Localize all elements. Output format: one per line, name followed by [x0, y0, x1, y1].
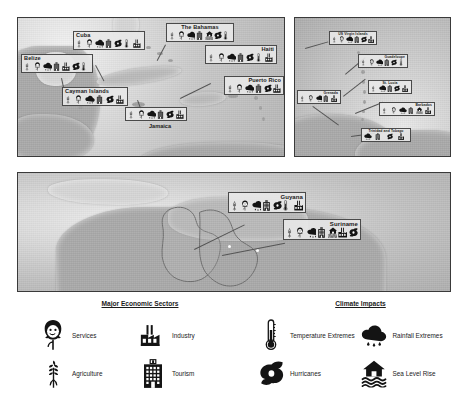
services-icon: [308, 95, 315, 102]
tourism-icon: [157, 110, 166, 119]
label-box-st-lucia[interactable]: St. Lucia: [368, 80, 412, 94]
tourism-icon: [96, 95, 105, 104]
hurricane-icon: [166, 110, 175, 119]
agriculture-icon: [382, 107, 390, 114]
services-icon: [178, 31, 186, 40]
temperature-icon: [223, 31, 231, 40]
label-box-cuba[interactable]: Cuba: [73, 31, 145, 50]
hurricane-icon: [394, 85, 401, 92]
icon-row-belize: [24, 62, 90, 71]
rainfall-icon: [361, 318, 387, 352]
icon-row-the-bahamas: [169, 31, 231, 40]
legend: Major Economic Sectors Services Agricult…: [0, 300, 468, 415]
tourism-icon: [317, 227, 326, 238]
label-box-the-bahamas[interactable]: The Bahamas: [166, 23, 234, 42]
services-icon: [236, 84, 244, 93]
services-icon: [75, 95, 84, 104]
map-figure: Belize Cuba: [0, 0, 468, 415]
rainfall-icon: [227, 53, 236, 62]
services-icon: [241, 200, 250, 211]
rainfall-icon: [245, 84, 253, 93]
icon-row-guyana: [231, 200, 303, 211]
hurricane-icon: [349, 227, 358, 238]
legend-subcol-sectors-left: Services Agriculture: [40, 316, 140, 392]
tourism-icon: [262, 200, 271, 211]
legend-title-economic-sectors: Major Economic Sectors: [40, 300, 240, 307]
northern-south-america-panel: Guyana Suriname: [17, 172, 451, 292]
legend-subcol-climate-right: Rainfall Extremes Sea Level Rise: [361, 316, 464, 392]
services-icon: [369, 59, 376, 66]
legend-subcol-climate-left: Temperature Extremes Hurricanes: [258, 316, 361, 392]
label-box-haiti[interactable]: Haiti: [205, 45, 277, 64]
label-box-us-virgin-islands[interactable]: US Virgin Islands: [329, 31, 377, 45]
rainfall-icon: [376, 59, 383, 66]
services-icon: [138, 110, 147, 119]
services-icon: [86, 39, 95, 48]
label-box-jamaica[interactable]: [125, 107, 187, 121]
legend-label-temperature-extremes: Temperature Extremes: [290, 332, 355, 339]
agriculture-icon: [361, 59, 368, 66]
industry-icon: [425, 107, 433, 114]
hurricane-icon: [387, 133, 397, 140]
agriculture-icon: [332, 36, 338, 43]
label-box-guyana[interactable]: Guyana: [228, 192, 306, 213]
rainfall-icon: [316, 95, 323, 102]
label-box-belize[interactable]: Belize: [21, 54, 93, 73]
icon-row-haiti: [208, 53, 274, 62]
icon-row-us-virgin-islands: [332, 36, 374, 43]
hurricane-icon: [391, 59, 398, 66]
tourism-icon: [354, 36, 360, 43]
tourism-icon: [140, 356, 166, 390]
rainfall-icon: [85, 95, 94, 104]
icon-row-trinidad-and-tobago: [364, 133, 408, 140]
agriculture-icon: [76, 39, 85, 48]
hurricane-icon: [114, 39, 123, 48]
label-box-cayman-islands[interactable]: Cayman Islands: [62, 87, 128, 106]
label-box-trinidad-and-tobago[interactable]: Trinidad and Tobago: [361, 128, 411, 142]
legend-label-industry: Industry: [172, 332, 195, 339]
agriculture-icon: [300, 95, 307, 102]
temperature-icon: [81, 62, 90, 71]
rainfall-icon: [187, 31, 195, 40]
rainfall-icon: [399, 107, 407, 114]
tourism-icon: [237, 53, 246, 62]
icon-row-barbados: [382, 107, 432, 114]
agriculture-icon: [169, 31, 177, 40]
icon-row-guadeloupe: [361, 59, 405, 66]
legend-grid-climate: Temperature Extremes Hurricanes: [258, 316, 463, 392]
label-box-puerto-rico[interactable]: Puerto Rico: [224, 76, 284, 95]
south-america-terrain: [18, 173, 450, 291]
industry-icon: [402, 85, 409, 92]
temperature-icon: [256, 53, 265, 62]
agriculture-icon: [208, 53, 217, 62]
icon-row-puerto-rico: [227, 84, 281, 93]
label-box-barbados[interactable]: Barbados: [379, 102, 435, 116]
label-box-suriname[interactable]: Suriname: [283, 219, 361, 240]
tourism-icon: [53, 62, 62, 71]
services-icon: [34, 62, 43, 71]
legend-subcol-sectors-right: Industry Tourism: [140, 316, 240, 392]
industry-icon: [294, 200, 303, 211]
industry-icon: [273, 84, 281, 93]
icon-row-jamaica: [128, 110, 184, 119]
label-box-grenada[interactable]: Grenada: [297, 90, 341, 104]
agriculture-icon: [231, 200, 240, 211]
industry-icon: [62, 62, 71, 71]
services-icon: [218, 53, 227, 62]
hurricane-icon: [273, 200, 282, 211]
industry-icon: [338, 227, 347, 238]
agriculture-icon: [40, 356, 66, 390]
icon-row-suriname: [286, 227, 358, 238]
industry-icon: [116, 95, 125, 104]
rainfall-icon: [43, 62, 52, 71]
caribbean-panel: Belize Cuba: [17, 17, 285, 157]
services-icon: [296, 227, 305, 238]
label-box-guadeloupe[interactable]: Guadeloupe: [358, 54, 408, 68]
legend-label-rainfall-extremes: Rainfall Extremes: [393, 332, 443, 339]
legend-label-agriculture: Agriculture: [72, 370, 103, 377]
icon-row-cuba: [76, 39, 142, 48]
legend-title-climate-impacts: Climate Impacts: [258, 300, 463, 307]
sealevel-icon: [416, 107, 424, 114]
legend-climate-impacts: Climate Impacts Temperature Extremes Hur…: [258, 300, 463, 392]
rainfall-icon: [379, 85, 386, 92]
